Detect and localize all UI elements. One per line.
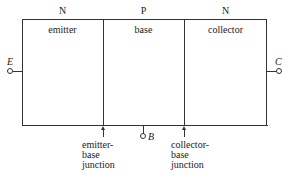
emitter-base-arrowhead-icon <box>101 126 105 130</box>
collector-doping-label: N <box>184 5 267 16</box>
emitter-terminal-label: E <box>7 57 13 67</box>
emitter-doping-label: N <box>22 5 103 16</box>
base-terminal-label: B <box>148 132 154 142</box>
collector-terminal-icon <box>276 68 282 74</box>
base-region-label: base <box>103 24 184 35</box>
collector-base-arrowhead-icon <box>182 126 186 130</box>
emitter-base-junction-label-3: junction <box>82 160 115 170</box>
bottom-edge <box>22 125 268 126</box>
base-doping-label: P <box>103 5 184 16</box>
collector-lead <box>267 71 276 72</box>
collector-base-junction-label-3: junction <box>171 160 204 170</box>
base-terminal-icon <box>140 133 146 139</box>
emitter-terminal-icon <box>7 68 13 74</box>
emitter-lead <box>13 71 22 72</box>
collector-region-label: collector <box>184 24 267 35</box>
emitter-region-label: emitter <box>22 24 103 35</box>
collector-terminal-label: C <box>275 57 282 67</box>
